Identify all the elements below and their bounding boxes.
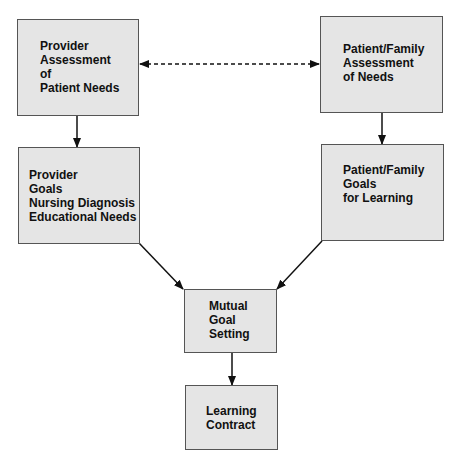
node-label: Learning Contract <box>206 404 257 432</box>
label-line: Provider <box>40 39 119 53</box>
node-mutual-goal-setting: Mutual Goal Setting <box>184 289 277 353</box>
label-line: Patient Needs <box>40 81 119 95</box>
label-line: Nursing Diagnosis <box>29 196 136 210</box>
arrow-family-goals-to-mutual <box>277 241 322 289</box>
label-line: Assessment <box>343 56 424 70</box>
label-line: of <box>40 67 119 81</box>
label-line: Assessment <box>40 53 119 67</box>
node-label: Patient/Family Assessment of Needs <box>343 42 424 84</box>
label-line: Provider <box>29 168 136 182</box>
label-line: for Learning <box>343 191 424 205</box>
label-line: Contract <box>206 418 257 432</box>
node-label: Patient/Family Goals for Learning <box>343 163 424 205</box>
label-line: of Needs <box>343 70 424 84</box>
label-line: Educational Needs <box>29 210 136 224</box>
node-patient-family-goals: Patient/Family Goals for Learning <box>321 144 444 241</box>
node-provider-goals: Provider Goals Nursing Diagnosis Educati… <box>18 147 140 244</box>
node-learning-contract: Learning Contract <box>185 385 278 450</box>
label-line: Patient/Family <box>343 163 424 177</box>
label-line: Goal <box>209 313 250 327</box>
node-provider-assessment: Provider Assessment of Patient Needs <box>17 19 139 116</box>
label-line: Goals <box>29 182 136 196</box>
label-line: Setting <box>209 327 250 341</box>
label-line: Goals <box>343 177 424 191</box>
label-line: Patient/Family <box>343 42 424 56</box>
node-label: Provider Assessment of Patient Needs <box>40 39 119 95</box>
node-label: Mutual Goal Setting <box>209 299 250 341</box>
node-label: Provider Goals Nursing Diagnosis Educati… <box>29 168 136 224</box>
label-line: Mutual <box>209 299 250 313</box>
node-patient-family-assessment: Patient/Family Assessment of Needs <box>320 16 443 113</box>
label-line: Learning <box>206 404 257 418</box>
arrow-provider-goals-to-mutual <box>139 243 183 289</box>
